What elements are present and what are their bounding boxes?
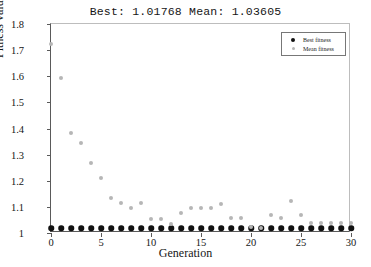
x-tick-label: 15 (196, 237, 207, 248)
chart-legend: Best fitness Mean fitness (281, 32, 346, 56)
mean-fitness-point (329, 221, 333, 225)
mean-fitness-point (289, 199, 293, 203)
mean-fitness-point (309, 221, 313, 225)
best-fitness-point (328, 226, 334, 232)
best-fitness-point (158, 226, 164, 232)
best-fitness-point (228, 226, 234, 232)
mean-fitness-point (99, 176, 103, 180)
legend-item-label: Best fitness (301, 37, 331, 43)
y-tick-label: 1.7 (11, 45, 24, 56)
best-fitness-point (118, 226, 124, 232)
mean-fitness-point (59, 76, 63, 80)
mean-fitness-point (249, 225, 253, 229)
y-tick-label: 1.3 (11, 149, 24, 160)
best-fitness-point (98, 226, 104, 232)
mean-fitness-point (69, 131, 73, 135)
legend-best-fitness-marker-icon (285, 38, 301, 42)
x-tick-label: 25 (296, 237, 307, 248)
best-fitness-point (298, 226, 304, 232)
best-fitness-point (148, 226, 154, 232)
best-fitness-point (208, 226, 214, 232)
x-tick-label: 30 (346, 237, 357, 248)
y-tick-label: 1.4 (11, 123, 24, 134)
mean-fitness-point (279, 216, 283, 220)
y-tick-label: 1.8 (11, 19, 24, 30)
y-tick-label: 1.2 (11, 175, 24, 186)
best-fitness-point (188, 226, 194, 232)
y-tick-label: 1.1 (11, 201, 24, 212)
best-fitness-point (78, 226, 84, 232)
legend-mean-fitness-marker-icon (285, 47, 301, 50)
mean-fitness-point (169, 222, 173, 226)
mean-fitness-point (349, 221, 353, 225)
x-tick-label: 5 (98, 237, 103, 248)
best-fitness-point (238, 226, 244, 232)
chart-title: Best: 1.01768 Mean: 1.03605 (0, 5, 371, 18)
best-fitness-point (138, 226, 144, 232)
y-tick-label: 1 (19, 228, 24, 239)
mean-fitness-point (49, 42, 53, 46)
mean-fitness-point (319, 221, 323, 225)
y-tick-label: 1.5 (11, 97, 24, 108)
mean-fitness-point (159, 217, 163, 221)
legend-item-label: Mean fitness (301, 46, 334, 52)
mean-fitness-point (339, 221, 343, 225)
mean-fitness-point (79, 141, 83, 145)
mean-fitness-point (179, 211, 183, 215)
best-fitness-point (128, 226, 134, 232)
mean-fitness-point (259, 226, 263, 230)
mean-fitness-point (209, 206, 213, 210)
best-fitness-point (198, 226, 204, 232)
x-tick-label: 20 (246, 237, 257, 248)
x-axis-label: Generation (0, 246, 371, 261)
mean-fitness-point (89, 161, 93, 165)
y-axis-label: Fitness value (0, 0, 7, 58)
best-fitness-point (348, 226, 354, 232)
x-tick-label: 10 (146, 237, 157, 248)
mean-fitness-point (149, 217, 153, 221)
best-fitness-point (178, 226, 184, 232)
mean-fitness-point (189, 206, 193, 210)
best-fitness-point (268, 226, 274, 232)
best-fitness-point (108, 226, 114, 232)
mean-fitness-point (269, 213, 273, 217)
best-fitness-point (288, 226, 294, 232)
fitness-scatter-figure: Best: 1.01768 Mean: 1.03605 Fitness valu… (0, 0, 371, 267)
best-fitness-point (48, 226, 54, 232)
legend-item-mean-fitness: Mean fitness (285, 44, 342, 53)
best-fitness-point (318, 226, 324, 232)
mean-fitness-point (299, 213, 303, 217)
mean-fitness-point (219, 202, 223, 206)
mean-fitness-point (129, 206, 133, 210)
best-fitness-point (218, 226, 224, 232)
best-fitness-point (88, 226, 94, 232)
mean-fitness-point (119, 201, 123, 205)
mean-fitness-point (109, 196, 113, 200)
mean-fitness-point (229, 216, 233, 220)
best-fitness-point (58, 226, 64, 232)
best-fitness-point (308, 226, 314, 232)
mean-fitness-point (139, 201, 143, 205)
mean-fitness-point (239, 216, 243, 220)
x-tick-label: 0 (48, 237, 53, 248)
best-fitness-point (68, 226, 74, 232)
y-tick-label: 1.6 (11, 71, 24, 82)
legend-item-best-fitness: Best fitness (285, 35, 342, 44)
best-fitness-point (278, 226, 284, 232)
best-fitness-point (168, 226, 174, 232)
best-fitness-point (338, 226, 344, 232)
mean-fitness-point (199, 206, 203, 210)
